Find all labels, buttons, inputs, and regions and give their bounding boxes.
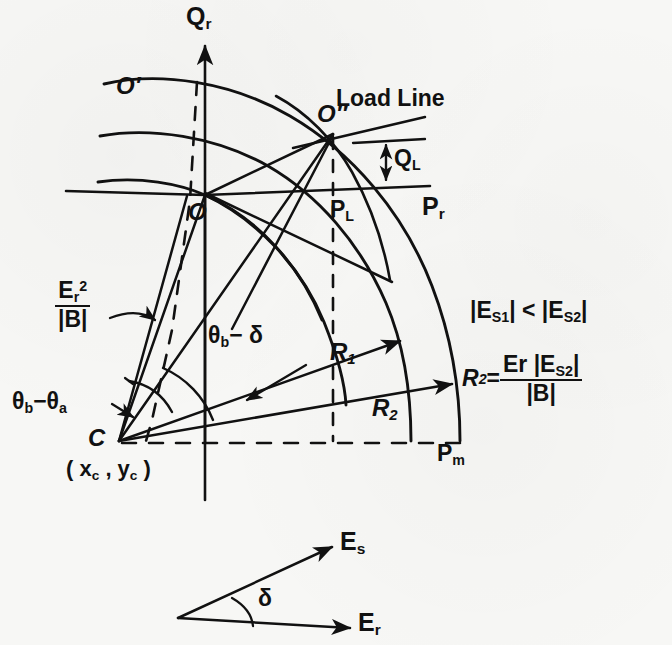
q-l-top-tick — [353, 139, 425, 143]
pointer-arrow-theta-b-delta — [247, 365, 306, 400]
point-c-label: C — [88, 424, 105, 452]
angle-theta-b-minus-theta-a-label: θb−θa — [12, 388, 67, 416]
q-axis-label: Qr — [186, 2, 212, 33]
line-C-to-O — [119, 195, 205, 441]
phasor-delta-label: δ — [258, 585, 272, 612]
phasor-Er-arrow — [178, 618, 350, 628]
line-O-to-O2 — [205, 134, 333, 195]
r2-equation: R2 = Er |ES2| |B| — [462, 352, 582, 405]
p-axis-label: Pr — [422, 192, 445, 223]
line-O2-descending-left — [232, 135, 333, 329]
load-line-label: Load Line — [336, 85, 445, 112]
angle-theta-b-minus-delta-label: θb− δ — [208, 322, 263, 350]
radius-r1-label: R1 — [330, 338, 356, 367]
inequality-es1-es2: |ES1| < |ES2| — [470, 297, 588, 325]
point-o-label: O — [188, 198, 207, 226]
phasor-er-label: Er — [358, 608, 381, 639]
radius-r2-label: R2 — [372, 394, 398, 423]
pointer-arrow-er-sq — [110, 313, 155, 320]
diagram-canvas: Qr Pr O′ O O″ Load Line QL PL Pm Er2 |B|… — [0, 0, 672, 645]
point-o-prime-label: O′ — [116, 72, 140, 100]
center-coordinates-label: ( xc , yc ) — [66, 456, 151, 483]
arc-inner — [98, 180, 322, 320]
p-l-label: PL — [330, 196, 354, 224]
p-m-label: Pm — [437, 440, 465, 468]
er-squared-over-b-equation: Er2 |B| — [55, 278, 90, 331]
phasor-Es-arrow — [178, 547, 332, 618]
q-l-label: QL — [394, 145, 421, 173]
line-O-descending-right — [205, 193, 392, 282]
radius-R1-arrow — [119, 341, 400, 441]
radius-R2-arrow — [119, 384, 452, 441]
phasor-es-label: Es — [340, 527, 365, 558]
